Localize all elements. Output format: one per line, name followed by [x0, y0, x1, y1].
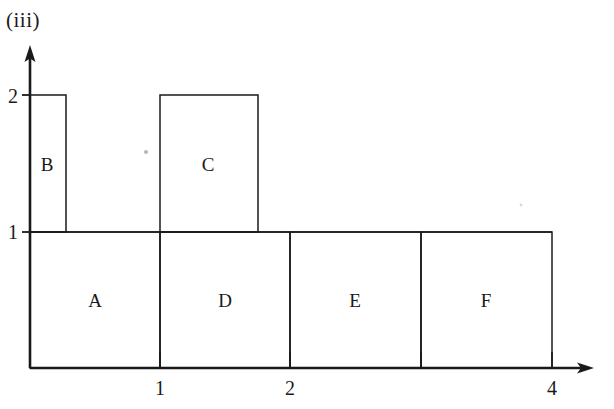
panel-tag: (iii): [6, 10, 40, 31]
region-label-F: F: [481, 291, 492, 310]
y-tick-label-1: 1: [8, 222, 18, 242]
upper-row-rectangles: [30, 95, 258, 232]
x-tick-label-1: 1: [155, 378, 165, 398]
figure-canvas: [0, 0, 614, 409]
scan-speck-right: [520, 204, 523, 207]
region-label-B: B: [41, 155, 54, 174]
lower-row-rectangles: [30, 232, 552, 368]
region-label-A: A: [88, 291, 102, 310]
figure-diagram: (iii) 1 2 1 2 4 A B C D E F: [0, 0, 614, 409]
x-tick-label-4: 4: [547, 378, 557, 398]
y-tick-label-2: 2: [8, 86, 18, 106]
x-tick-label-2: 2: [285, 378, 295, 398]
region-label-D: D: [218, 291, 232, 310]
axis-group: [25, 45, 595, 374]
scan-speck-left: [144, 150, 148, 154]
region-label-E: E: [349, 291, 361, 310]
region-label-C: C: [202, 155, 215, 174]
x-tick-marks: [160, 352, 552, 368]
